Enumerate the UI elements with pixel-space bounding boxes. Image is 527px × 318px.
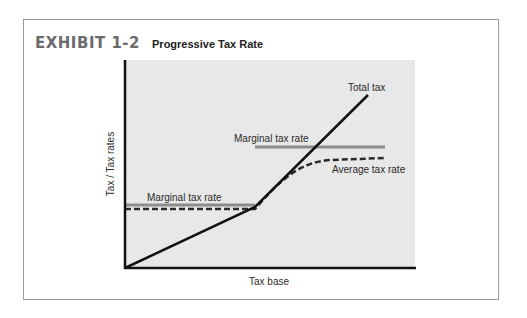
y-axis-label: Tax / Tax rates [105,132,116,196]
marginal-rate-high-label: Marginal tax rate [234,133,309,144]
chart: Total tax Marginal tax rate Marginal tax… [0,0,527,318]
total-tax-label: Total tax [348,82,385,93]
marginal-rate-low-label: Marginal tax rate [147,192,222,203]
average-rate-label: Average tax rate [332,164,406,175]
x-axis-label: Tax base [249,276,289,287]
